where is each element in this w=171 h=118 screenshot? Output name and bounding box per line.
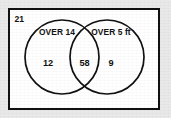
venn-diagram-canvas: 21 OVER 14 OVER 5 ft 12 58 9 — [0, 0, 171, 118]
figure-number-label: 21 — [15, 14, 25, 24]
set-label-left: OVER 14 — [39, 27, 75, 37]
count-right-only: 9 — [108, 58, 113, 68]
count-left-only: 12 — [43, 58, 53, 68]
venn-diagram-figure: 21 OVER 14 OVER 5 ft 12 58 9 — [0, 0, 171, 118]
count-intersection: 58 — [79, 58, 89, 68]
set-label-right: OVER 5 ft — [91, 27, 131, 37]
